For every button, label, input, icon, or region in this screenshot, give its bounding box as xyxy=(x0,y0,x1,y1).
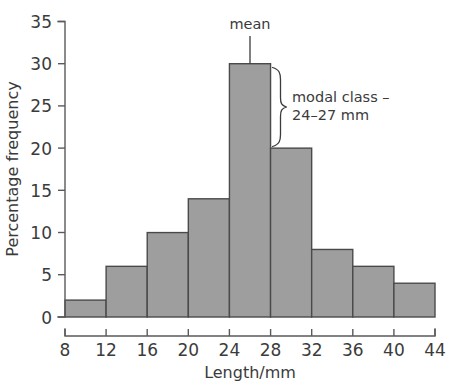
y-tick-label-25: 25 xyxy=(30,96,52,116)
y-tick-label-5: 5 xyxy=(41,265,52,285)
histogram-figure: 35 30 25 20 15 10 5 0 Percentage frequen… xyxy=(0,0,472,391)
x-tick-label-28: 28 xyxy=(260,340,282,360)
x-tick-marks xyxy=(65,329,435,336)
x-tick-labels: 8 12 16 20 24 28 32 36 40 44 xyxy=(60,340,446,360)
bar-16-20[interactable] xyxy=(147,233,188,317)
x-tick-label-36: 36 xyxy=(342,340,364,360)
y-tick-label-10: 10 xyxy=(30,223,52,243)
bar-36-40[interactable] xyxy=(353,266,394,317)
modal-class-brace xyxy=(273,68,287,147)
y-axis-title: Percentage frequency xyxy=(3,81,22,256)
bar-24-28[interactable] xyxy=(229,64,270,317)
bar-12-16[interactable] xyxy=(106,266,147,317)
x-tick-label-16: 16 xyxy=(136,340,158,360)
mean-annotation-label: mean xyxy=(229,16,270,32)
bar-40-44[interactable] xyxy=(394,283,435,317)
x-tick-label-20: 20 xyxy=(177,340,199,360)
x-tick-label-12: 12 xyxy=(95,340,117,360)
x-tick-label-24: 24 xyxy=(219,340,241,360)
y-axis-line xyxy=(58,22,65,318)
modal-class-label-line2: 24–27 mm xyxy=(292,107,369,123)
mean-annotation: mean xyxy=(229,16,270,64)
bar-20-24[interactable] xyxy=(188,199,229,317)
modal-class-label-line1: modal class – xyxy=(292,89,390,105)
modal-class-annotation: modal class – 24–27 mm xyxy=(273,68,390,147)
bar-28-32[interactable] xyxy=(271,148,312,317)
x-axis-title: Length/mm xyxy=(204,363,296,382)
y-tick-label-15: 15 xyxy=(30,181,52,201)
y-tick-label-30: 30 xyxy=(30,54,52,74)
y-tick-label-0: 0 xyxy=(41,308,52,328)
y-tick-labels: 35 30 25 20 15 10 5 0 xyxy=(30,12,52,328)
y-tick-label-20: 20 xyxy=(30,139,52,159)
y-tick-label-35: 35 xyxy=(30,12,52,32)
x-axis-line xyxy=(65,329,435,336)
x-tick-label-40: 40 xyxy=(383,340,405,360)
x-tick-label-32: 32 xyxy=(301,340,323,360)
chart-canvas: 35 30 25 20 15 10 5 0 Percentage frequen… xyxy=(0,0,472,391)
bar-8-12[interactable] xyxy=(65,300,106,317)
y-tick-marks xyxy=(58,22,65,318)
x-tick-label-44: 44 xyxy=(424,340,446,360)
x-tick-label-8: 8 xyxy=(60,340,71,360)
bar-32-36[interactable] xyxy=(312,249,353,317)
